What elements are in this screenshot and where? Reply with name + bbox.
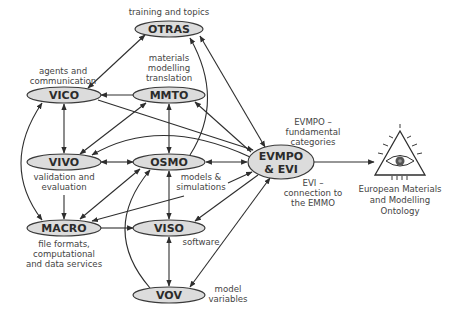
evmpo-caption: EVMPO –fundamentalcategories [286, 117, 341, 147]
vico-label: VICO [49, 89, 79, 102]
mmto-label: MMTO [150, 89, 189, 102]
node-otras[interactable]: training and topics OTRAS [129, 7, 210, 37]
node-mmto[interactable]: materialsmodellingtranslation MMTO [133, 53, 205, 103]
emmo-caption: European Materialsand ModellingOntology [358, 184, 442, 216]
edge-osmo-note-macro [92, 196, 184, 221]
viso-label: VISO [154, 222, 184, 235]
mmto-caption: materialsmodellingtranslation [146, 53, 192, 83]
edge-vico-evmpo [98, 100, 253, 150]
ontology-diagram: training and topics OTRAS agents andcomm… [0, 0, 449, 316]
vivo-label: VIVO [49, 156, 79, 169]
evi-label: & EVI [264, 163, 298, 176]
otras-label: OTRAS [148, 23, 190, 36]
edge-vico-otras [88, 35, 145, 88]
osmo-caption: models &simulations [176, 172, 226, 192]
macro-caption: file formats,computationaland data servi… [26, 239, 103, 269]
evi-caption: EVI –connection tothe EMMO [284, 178, 343, 208]
edge-mmto-vivo [80, 103, 146, 154]
otras-caption: training and topics [129, 7, 210, 17]
vov-caption: modelvariables [208, 284, 248, 304]
edge-evmpo-vov [190, 178, 270, 287]
eye-in-triangle-icon [375, 124, 425, 180]
vico-caption: agents andcommunication [30, 66, 96, 86]
node-vico[interactable]: agents andcommunication VICO [27, 66, 101, 103]
viso-caption: software [183, 237, 220, 247]
macro-label: MACRO [41, 222, 86, 235]
node-macro[interactable]: MACRO file formats,computationaland data… [26, 220, 103, 269]
vov-label: VOV [156, 289, 182, 302]
vivo-caption: validation andevaluation [33, 172, 94, 192]
edge-evmpo-otras [200, 36, 265, 147]
node-emmo[interactable]: European Materialsand ModellingOntology [358, 124, 442, 216]
osmo-label: OSMO [150, 156, 188, 169]
node-viso[interactable]: VISO software [133, 220, 219, 247]
node-vivo[interactable]: VIVO validation andevaluation [27, 154, 101, 192]
evmpo-label: EVMPO [259, 150, 303, 163]
